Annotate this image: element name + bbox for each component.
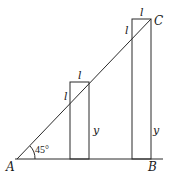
geometry-diagram: A B C 45° l l y l l y xyxy=(0,0,171,176)
small-rect-height-label: y xyxy=(92,124,100,137)
large-rect-height-label: y xyxy=(152,124,160,137)
large-rectangle xyxy=(132,19,151,159)
large-rect-side-label: l xyxy=(125,24,129,37)
small-rect-top-label: l xyxy=(78,69,82,82)
hypotenuse-ac xyxy=(17,19,151,159)
angle-label: 45° xyxy=(35,144,49,155)
point-c-label: C xyxy=(154,14,163,28)
point-a-label: A xyxy=(5,160,15,174)
large-rect-top-label: l xyxy=(140,6,144,19)
point-b-label: B xyxy=(147,160,157,174)
small-rect-side-label: l xyxy=(64,90,68,103)
